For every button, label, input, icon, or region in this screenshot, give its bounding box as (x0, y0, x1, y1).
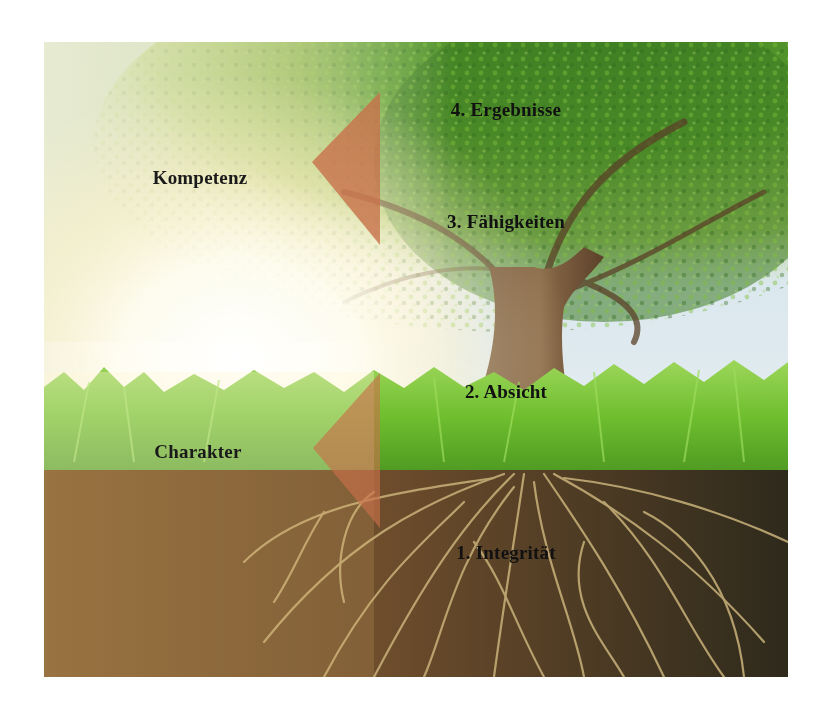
level-label-ergebnisse: 4. Ergebnisse (451, 99, 561, 121)
level-label-absicht: 2. Absicht (465, 381, 547, 403)
tree-scene (44, 42, 788, 677)
tree-illustration (44, 42, 788, 677)
level-label-faehigkeiten: 3. Fähigkeiten (447, 211, 565, 233)
level-label-integritaet: 1. Integrität (456, 542, 556, 564)
group-label-kompetenz: Kompetenz (153, 167, 248, 189)
group-label-charakter: Charakter (154, 441, 241, 463)
